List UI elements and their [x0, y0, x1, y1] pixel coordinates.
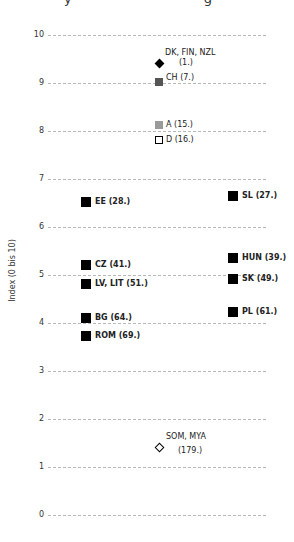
square-marker-ch: [155, 78, 163, 86]
y-tick-5: 5: [28, 270, 44, 280]
gridline-10: [48, 35, 266, 36]
gridline-7: [48, 179, 266, 180]
point-label-cz: CZ (41.): [95, 260, 131, 270]
square-marker-lv-lit: [81, 279, 91, 289]
y-tick-6: 6: [28, 222, 44, 232]
point-label-sl: SL (27.): [242, 191, 277, 201]
y-tick-4: 4: [28, 318, 44, 328]
point-label-som-mya: SOM, MYA (179.): [166, 432, 206, 456]
point-label-a: A (15.): [166, 120, 193, 130]
y-tick-2: 2: [28, 414, 44, 424]
square-marker-hun: [228, 253, 238, 263]
point-rank-text: (1.): [165, 58, 215, 68]
square-marker-rom: [81, 331, 91, 341]
square-marker-cz: [81, 260, 91, 270]
square-marker-ee: [81, 197, 91, 207]
square-marker-sk: [228, 274, 238, 284]
y-tick-10: 10: [28, 30, 44, 40]
y-tick-0: 0: [28, 510, 44, 520]
y-tick-1: 1: [28, 462, 44, 472]
square-marker-a: [155, 121, 163, 129]
point-label-ch: CH (7.): [166, 73, 194, 83]
point-label-rom: ROM (69.): [95, 331, 140, 341]
point-label-bg: BG (64.): [95, 313, 132, 323]
point-label-ee: EE (28.): [95, 197, 130, 207]
chart-plot-area: 10 9 8 7 6 5 4 3 2 1 0 Index (0 bis 10) …: [0, 0, 294, 542]
square-marker-bg: [81, 313, 91, 323]
gridline-2: [48, 419, 266, 420]
y-tick-9: 9: [28, 78, 44, 88]
point-label-sk: SK (49.): [242, 274, 278, 284]
gridline-0: [48, 515, 266, 516]
gridline-3: [48, 371, 266, 372]
point-label-text: DK, FIN, NZL: [165, 48, 215, 57]
gridline-8: [48, 131, 266, 132]
point-label-d: D (16.): [166, 135, 194, 145]
open-square-marker-d: [155, 136, 163, 144]
diamond-filled-marker: [155, 59, 165, 69]
gridline-4: [48, 323, 266, 324]
y-tick-3: 3: [28, 366, 44, 376]
square-marker-sl: [228, 191, 238, 201]
point-label-pl: PL (61.): [242, 307, 277, 317]
point-label-dk-fin-nzl: DK, FIN, NZL (1.): [165, 48, 215, 68]
y-tick-7: 7: [28, 174, 44, 184]
gridline-1: [48, 467, 266, 468]
y-axis-label: Index (0 bis 10): [8, 231, 17, 311]
diamond-open-marker: [155, 443, 165, 453]
gridline-6: [48, 227, 266, 228]
square-marker-pl: [228, 307, 238, 317]
point-label-hun: HUN (39.): [242, 253, 286, 263]
y-tick-8: 8: [28, 126, 44, 136]
point-label-text: SOM, MYA: [166, 432, 206, 441]
point-label-lv-lit: LV, LIT (51.): [95, 279, 148, 289]
point-rank-text: (179.): [166, 446, 206, 456]
